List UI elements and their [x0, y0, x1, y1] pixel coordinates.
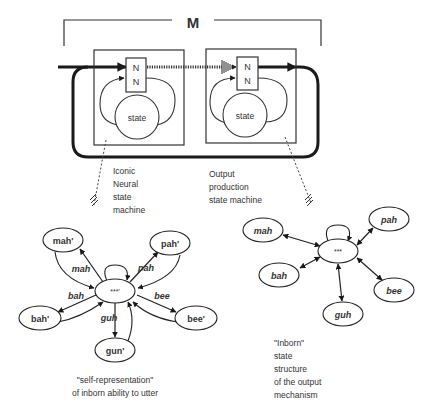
diagram-canvas: M N N state N N state	[0, 0, 430, 418]
svg-text:bee': bee'	[187, 314, 205, 324]
svg-text:bee: bee	[386, 286, 402, 296]
svg-text:state: state	[236, 111, 255, 121]
right-graph-caption-4: of the output	[274, 377, 322, 387]
svg-text:N: N	[244, 76, 251, 86]
svg-text:gun': gun'	[106, 346, 125, 356]
dotted-connection	[147, 60, 236, 74]
svg-text:mah: mah	[72, 264, 91, 274]
svg-text:***': ***'	[110, 288, 120, 295]
svg-text:mah': mah'	[53, 236, 74, 246]
svg-text:N: N	[133, 63, 140, 73]
self-representation-graph: ***' mah' pah' bah' bee' gun' mah pah ba…	[19, 228, 217, 398]
output-production-state-machine: N N state	[206, 49, 296, 143]
iconic-neural-state-machine: N N state	[94, 50, 184, 145]
svg-text:bah': bah'	[31, 314, 49, 324]
svg-text:N: N	[133, 77, 140, 87]
svg-text:pah: pah	[137, 263, 155, 273]
svg-text:state: state	[113, 192, 132, 202]
right-graph-caption-3: structure	[274, 364, 307, 374]
right-graph-caption-5: mechanism	[274, 390, 317, 400]
svg-text:state: state	[128, 113, 147, 123]
m-label: M	[187, 14, 200, 31]
caption-iconic: Iconic Neural state machine	[113, 166, 145, 215]
svg-text:mah: mah	[254, 226, 273, 236]
m-bracket: M	[64, 14, 321, 46]
left-graph-caption-2: of inborn ability to utter	[72, 388, 158, 398]
inborn-state-structure-graph: *** mah pah bah bee guh "Inborn" state s…	[243, 207, 414, 400]
svg-text:bah: bah	[271, 271, 288, 281]
svg-text:bah: bah	[68, 291, 85, 301]
right-graph-caption-1: "Inborn"	[274, 338, 304, 348]
caption-output: Output production state machine	[209, 169, 262, 205]
right-graph-caption-2: state	[274, 351, 293, 361]
svg-text:state machine: state machine	[209, 195, 262, 205]
svg-text:Output: Output	[209, 169, 235, 179]
svg-text:machine: machine	[113, 205, 145, 215]
svg-text:guh: guh	[334, 310, 352, 320]
svg-text:bee: bee	[154, 291, 170, 301]
svg-text:guh: guh	[100, 313, 118, 323]
left-graph-caption-1: "self-representation"	[77, 375, 153, 385]
svg-text:Iconic: Iconic	[113, 166, 136, 176]
svg-text:N: N	[244, 62, 251, 72]
svg-text:Neural: Neural	[113, 179, 138, 189]
svg-text:pah: pah	[380, 215, 398, 225]
svg-text:production: production	[209, 182, 249, 192]
svg-text:pah': pah'	[161, 239, 179, 249]
svg-text:***: ***	[334, 248, 342, 255]
